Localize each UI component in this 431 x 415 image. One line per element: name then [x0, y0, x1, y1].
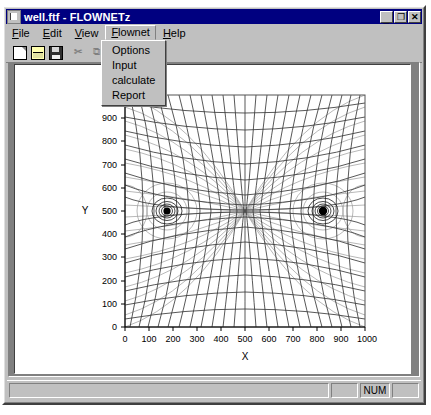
- open-folder-icon: [31, 46, 45, 60]
- status-message: [9, 383, 329, 398]
- menu-item-report[interactable]: Report: [102, 88, 165, 103]
- minimize-button[interactable]: _: [380, 11, 393, 23]
- cut-button[interactable]: ✂: [69, 43, 86, 59]
- y-tick-600: 600: [102, 183, 117, 193]
- minimize-icon: _: [381, 12, 392, 22]
- x-tick-800: 800: [309, 334, 324, 344]
- x-axis-title: X: [242, 351, 249, 362]
- menu-edit-label: dit: [50, 27, 62, 39]
- menu-help[interactable]: Help: [157, 26, 192, 40]
- floppy-disk-icon: [49, 46, 63, 60]
- x-tick-200: 200: [165, 334, 180, 344]
- window-title: well.ftf - FLOWNETz: [24, 11, 130, 23]
- save-file-button[interactable]: [46, 43, 63, 59]
- menu-item-options[interactable]: Options: [102, 43, 165, 58]
- maximize-button[interactable]: ❐: [394, 11, 407, 23]
- menu-help-label: elp: [171, 27, 186, 39]
- y-tick-100: 100: [102, 299, 117, 309]
- x-tick-700: 700: [285, 334, 300, 344]
- status-pane-num: NUM: [360, 383, 390, 398]
- x-tick-100: 100: [141, 334, 156, 344]
- x-tick-300: 300: [189, 334, 204, 344]
- y-axis: 0 100 200 300 400 500 600 700 800 900 Y: [82, 95, 125, 332]
- flownet-plot: 0 100 200 300 400 500 600 700 800 900 10…: [15, 65, 411, 374]
- y-tick-200: 200: [102, 276, 117, 286]
- status-pane-1: [331, 383, 358, 398]
- menu-flownet-label: lownet: [118, 26, 150, 38]
- menu-bar: File Edit View Flownet Help: [6, 25, 422, 41]
- new-document-icon: [13, 46, 27, 60]
- status-pane-3: [392, 383, 419, 398]
- document-icon[interactable]: [7, 10, 21, 24]
- close-button[interactable]: ✕: [408, 11, 421, 23]
- well-marker-2[interactable]: [319, 207, 327, 215]
- close-icon: ✕: [409, 12, 420, 22]
- y-tick-0: 0: [112, 322, 117, 332]
- scissors-icon: ✂: [72, 46, 84, 58]
- flownet-dropdown-menu: Options Input calculate Report: [101, 40, 166, 106]
- x-tick-900: 900: [333, 334, 348, 344]
- menu-view[interactable]: View: [69, 26, 105, 40]
- menu-item-calculate[interactable]: calculate: [102, 73, 165, 88]
- new-file-button[interactable]: [10, 43, 27, 59]
- y-tick-300: 300: [102, 252, 117, 262]
- x-tick-600: 600: [261, 334, 276, 344]
- y-tick-500: 500: [102, 206, 117, 216]
- y-tick-900: 900: [102, 113, 117, 123]
- menu-file[interactable]: File: [6, 26, 36, 40]
- x-tick-500: 500: [237, 334, 252, 344]
- title-bar[interactable]: well.ftf - FLOWNETz _ ❐ ✕: [6, 9, 422, 24]
- x-tick-400: 400: [213, 334, 228, 344]
- menu-item-input[interactable]: Input: [102, 58, 165, 73]
- menu-view-label: iew: [82, 27, 99, 39]
- x-tick-0: 0: [122, 334, 127, 344]
- mdi-client-area: 0 100 200 300 400 500 600 700 800 900 10…: [8, 62, 420, 377]
- x-axis: 0 100 200 300 400 500 600 700 800 900 10…: [122, 327, 377, 362]
- status-bar: NUM: [7, 380, 421, 400]
- menu-flownet[interactable]: Flownet: [105, 25, 156, 40]
- menu-edit[interactable]: Edit: [37, 26, 68, 40]
- well-marker-1[interactable]: [163, 207, 170, 214]
- window-controls: _ ❐ ✕: [380, 11, 422, 23]
- y-tick-800: 800: [102, 136, 117, 146]
- open-file-button[interactable]: [28, 43, 45, 59]
- document-window: 0 100 200 300 400 500 600 700 800 900 10…: [14, 64, 411, 374]
- menu-file-label: ile: [19, 27, 30, 39]
- x-tick-1000: 1000: [357, 334, 377, 344]
- y-tick-700: 700: [102, 160, 117, 170]
- y-axis-title: Y: [82, 205, 89, 216]
- application-window: well.ftf - FLOWNETz _ ❐ ✕ File Edit View…: [2, 5, 426, 405]
- maximize-icon: ❐: [395, 12, 406, 22]
- toolbar: ✂ ⧉: [6, 40, 422, 63]
- y-tick-400: 400: [102, 229, 117, 239]
